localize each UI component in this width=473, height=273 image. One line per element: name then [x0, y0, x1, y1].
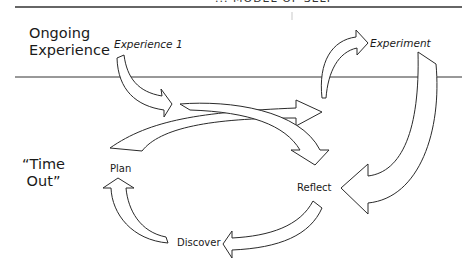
arrow-to-experiment	[321, 30, 368, 98]
node-reflect: Reflect	[297, 183, 332, 193]
node-experiment: Experiment	[370, 38, 431, 49]
row-label-line1: “Time	[22, 156, 65, 173]
row-label-line1: Ongoing	[29, 25, 110, 42]
node-discover: Discover	[177, 238, 221, 248]
node-experience-1: Experience 1	[114, 39, 183, 50]
row-label-ongoing-experience: Ongoing Experience	[29, 25, 110, 59]
arrow-experience-to-plan	[117, 55, 172, 117]
arrow-experiment-to-reflect	[341, 52, 437, 214]
row-label-line2: Out”	[22, 173, 65, 190]
row-label-line2: Experience	[29, 42, 110, 59]
arrow-discover-to-plan	[103, 178, 168, 243]
node-plan: Plan	[110, 164, 131, 174]
arrow-reflect-to-discover	[223, 201, 322, 258]
row-label-time-out: “Time Out”	[22, 156, 65, 190]
